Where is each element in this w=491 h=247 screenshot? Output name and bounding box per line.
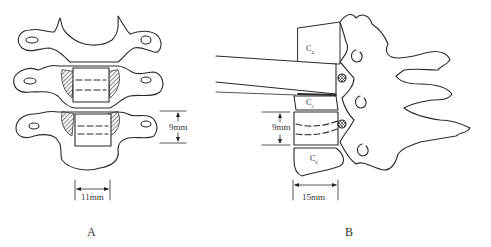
panel-b-drawing xyxy=(216,15,470,200)
panel-b-label: B xyxy=(345,225,353,240)
panel-a-height-label: 9mm xyxy=(169,122,188,132)
panel-a-label: A xyxy=(87,225,96,240)
figure-drawing xyxy=(0,0,491,247)
panel-b-width-label: 15mm xyxy=(302,192,325,202)
panel-a-width-label: 11mm xyxy=(81,192,104,202)
vertebra-c4-label: C4 xyxy=(306,44,314,55)
vertebra-c6-label: C6 xyxy=(310,154,318,165)
panel-b-height-label: 9mm xyxy=(272,122,291,132)
vertebra-c5-label: C5 xyxy=(306,98,314,109)
panel-a-drawing xyxy=(14,16,186,200)
